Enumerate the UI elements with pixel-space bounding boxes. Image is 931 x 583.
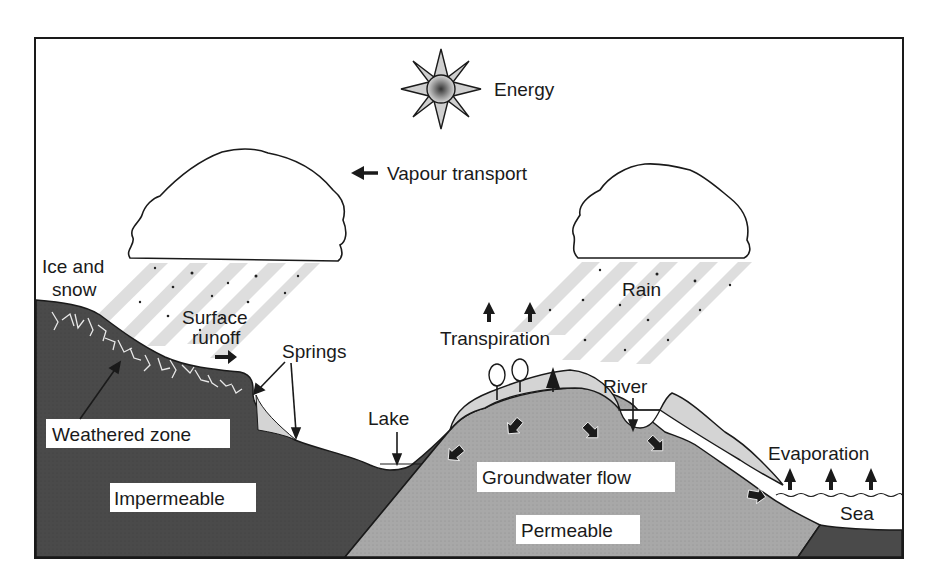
label-springs: Springs <box>282 341 346 362</box>
label-energy: Energy <box>494 79 555 100</box>
label-impermeable: Impermeable <box>114 488 225 509</box>
sun-icon <box>401 49 481 129</box>
label-ice-and-snow-line2: snow <box>52 279 97 300</box>
water-cycle-diagram: Energy Vapour transport <box>0 0 931 583</box>
label-permeable: Permeable <box>521 520 613 541</box>
label-weathered-zone: Weathered zone <box>52 424 191 445</box>
label-groundwater-flow: Groundwater flow <box>482 467 631 488</box>
label-lake: Lake <box>368 408 409 429</box>
label-surface-runoff: Surface <box>182 307 247 328</box>
label-vapour-transport: Vapour transport <box>387 163 528 184</box>
label-surface-runoff-line2: runoff <box>192 327 241 348</box>
label-rain: Rain <box>622 279 661 300</box>
label-transpiration: Transpiration <box>440 328 550 349</box>
label-sea: Sea <box>840 503 874 524</box>
label-ice-and-snow: Ice and <box>42 256 104 277</box>
label-river: River <box>603 376 648 397</box>
label-evaporation: Evaporation <box>768 443 869 464</box>
